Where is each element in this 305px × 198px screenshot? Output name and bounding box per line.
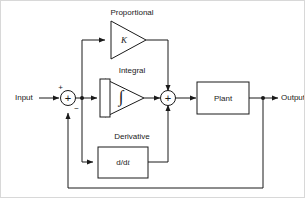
diagram-canvas: Input + + − Proportional K Integral ∫ De… <box>1 1 305 198</box>
error-sum-plus-sign: + <box>58 83 63 92</box>
control-sum-symbol: + <box>165 92 171 104</box>
integral-title: Integral <box>119 66 146 75</box>
output-label: Output <box>281 93 305 102</box>
plant-label: Plant <box>214 94 233 103</box>
proportional-gain-block <box>111 21 146 59</box>
input-label: Input <box>15 93 34 102</box>
proportional-title: Proportional <box>110 8 153 17</box>
integral-block <box>105 79 144 117</box>
derivative-title: Derivative <box>114 132 150 141</box>
integral-block-bar <box>100 79 110 117</box>
error-sum-symbol: + <box>65 92 71 104</box>
error-sum-minus-sign: − <box>74 104 79 113</box>
derivative-symbol: d/dt <box>116 157 130 166</box>
derivative-input-wire <box>82 98 93 162</box>
pid-block-diagram: Input + + − Proportional K Integral ∫ De… <box>0 0 305 198</box>
derivative-output-wire <box>148 105 168 162</box>
proportional-output-wire <box>146 40 168 91</box>
proportional-gain-symbol: K <box>120 35 128 45</box>
